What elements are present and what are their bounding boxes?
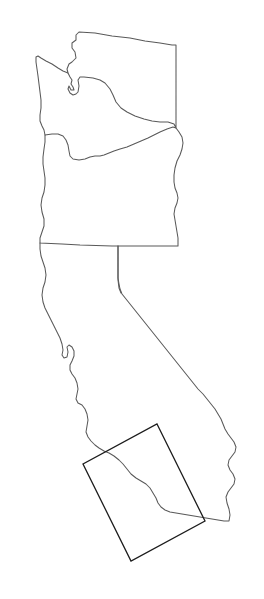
map-canvas: Outline map of Washington, Oregon and Ca… — [0, 0, 264, 599]
map-figure: Outline map of Washington, Oregon and Ca… — [0, 0, 264, 599]
roi-box-icon[interactable] — [83, 424, 205, 561]
region-washington — [67, 32, 176, 128]
state-outlines-group — [36, 32, 236, 521]
region-california — [40, 243, 236, 521]
region-oregon — [40, 127, 183, 246]
annotations-group — [83, 424, 205, 561]
region-washington-olympic-coast — [36, 56, 68, 135]
